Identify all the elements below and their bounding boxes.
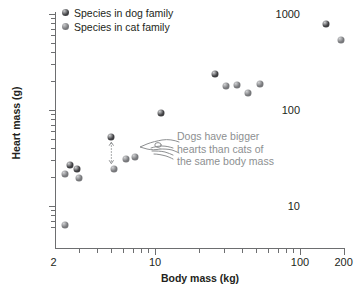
x-tick-label: 200: [334, 256, 352, 268]
y-tick-minor: [51, 131, 55, 132]
x-tick-minor: [242, 249, 243, 253]
x-tick-minor: [111, 249, 112, 253]
x-tick-minor: [278, 249, 279, 253]
data-point: [257, 81, 264, 88]
x-tick-minor: [224, 249, 225, 253]
x-tick-minor: [133, 249, 134, 253]
x-tick-minor: [97, 249, 98, 253]
annotation-line: the same body mass: [177, 155, 299, 168]
x-tick-minor: [256, 249, 257, 253]
y-tick-minor: [51, 221, 55, 222]
y-tick-minor: [51, 125, 55, 126]
data-point: [108, 134, 115, 141]
y-tick-label: 100: [282, 104, 300, 116]
y-tick-minor: [51, 148, 55, 149]
x-tick-minor: [268, 249, 269, 253]
y-tick-minor: [51, 215, 55, 216]
x-axis-title: Body mass (kg): [55, 272, 345, 284]
x-tick-minor: [79, 249, 80, 253]
y-tick-minor: [51, 114, 55, 115]
legend-item-label: Species in dog family: [74, 7, 173, 19]
x-tick-major: [344, 249, 345, 255]
dog-family-marker: [62, 9, 69, 16]
data-point: [212, 71, 219, 78]
x-tick-minor: [123, 249, 124, 253]
y-tick-major: [49, 14, 55, 15]
y-tick-major: [49, 110, 55, 111]
x-tick-minor: [141, 249, 142, 253]
data-point: [67, 162, 74, 169]
data-point: [338, 36, 345, 43]
pointing-hand-icon: [138, 136, 180, 162]
y-tick-minor: [51, 139, 55, 140]
legend: Species in dog family Species in cat fam…: [62, 6, 173, 34]
data-point: [62, 222, 69, 229]
data-point: [74, 166, 81, 173]
y-tick-minor: [51, 177, 55, 178]
x-tick-major: [300, 249, 301, 255]
y-tick-minor: [51, 29, 55, 30]
data-point: [76, 175, 83, 182]
data-point: [110, 165, 117, 172]
y-tick-minor: [51, 227, 55, 228]
annotation-text: Dogs have bigger hearts than cats of the…: [177, 130, 299, 168]
y-tick-minor: [51, 35, 55, 36]
y-tick-label: 10: [288, 200, 300, 212]
y-tick-minor: [51, 52, 55, 53]
x-tick-label: 2: [51, 256, 57, 268]
y-tick-minor: [51, 64, 55, 65]
y-tick-minor: [51, 81, 55, 82]
x-tick-minor: [293, 249, 294, 253]
scatter-plot-figure: 101001000 210100200 Heart mass (g) Body …: [0, 0, 358, 290]
cat-family-marker: [62, 23, 69, 30]
data-point: [158, 110, 165, 117]
y-axis-title: Heart mass (g): [10, 68, 22, 178]
data-point: [234, 82, 241, 89]
y-axis-line: [55, 12, 56, 249]
x-tick-label: 10: [149, 256, 161, 268]
y-tick-minor: [51, 23, 55, 24]
y-tick-minor: [51, 160, 55, 161]
x-tick-major: [155, 249, 156, 255]
annotation-line: hearts than cats of: [177, 143, 299, 156]
y-tick-minor: [51, 119, 55, 120]
x-tick-minor: [286, 249, 287, 253]
data-point: [62, 171, 69, 178]
x-tick-label: 100: [291, 256, 309, 268]
y-tick-minor: [51, 210, 55, 211]
legend-item-label: Species in cat family: [74, 21, 170, 33]
annotation-line: Dogs have bigger: [177, 130, 299, 143]
data-point: [322, 20, 329, 27]
y-axis-ticks: [45, 0, 55, 290]
data-point: [223, 82, 230, 89]
legend-item-cat-family: Species in cat family: [62, 20, 173, 33]
x-tick-minor: [199, 249, 200, 253]
data-point: [245, 89, 252, 96]
y-tick-minor: [51, 43, 55, 44]
x-tick-minor: [148, 249, 149, 253]
data-point: [122, 155, 129, 162]
legend-item-dog-family: Species in dog family: [62, 6, 173, 19]
y-tick-major: [49, 206, 55, 207]
y-tick-label: 1000: [276, 8, 300, 20]
y-tick-minor: [51, 18, 55, 19]
